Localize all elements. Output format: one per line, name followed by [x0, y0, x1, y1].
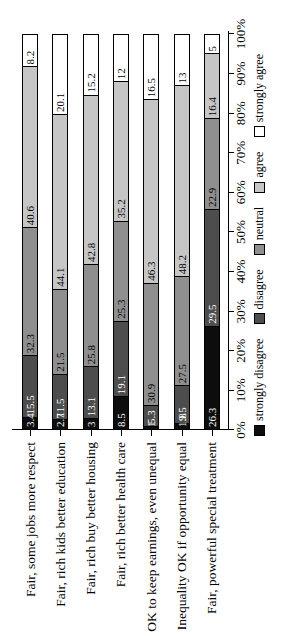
category-tick	[151, 430, 152, 436]
category-tick	[121, 430, 122, 436]
bar-segment-neutral: 22.9	[204, 118, 220, 210]
legend-label: neutral	[252, 207, 266, 240]
bar-segment-strongly-disagree: 1.8	[174, 423, 190, 430]
category-tick	[60, 430, 61, 436]
segment-value-label: 42.8	[85, 243, 96, 262]
segment-value-label: 3.4	[25, 413, 36, 427]
bar-segment-strongly-disagree: 3.4	[22, 417, 38, 430]
category-label: Fair, rich better health care	[112, 442, 129, 632]
bar-segment-strongly-agree: 12	[113, 34, 129, 83]
segment-value-label: 40.6	[25, 206, 36, 225]
segment-value-label: 25.3	[115, 299, 126, 318]
segment-value-label: 8.2	[25, 51, 36, 65]
category-label: Fair, rich buy better housing	[82, 442, 99, 632]
bar-segment-strongly-disagree: 3	[83, 418, 99, 430]
segment-value-label: 12	[115, 68, 126, 79]
bar-segment-strongly-agree: 8.2	[22, 34, 38, 67]
segment-value-label: 19.1	[115, 375, 126, 394]
legend-item: strongly disagree	[252, 339, 266, 436]
bar-segment-disagree: 5.3	[143, 405, 159, 427]
legend-swatch-strongly-disagree	[254, 425, 265, 436]
bar-segment-agree: 16.4	[204, 53, 220, 119]
segment-value-label: 44.1	[55, 267, 66, 286]
legend-swatch-agree	[254, 182, 265, 193]
legend-swatch-neutral	[254, 244, 265, 255]
segment-value-label: 11.5	[55, 398, 66, 417]
category-label: OK to keep earnings, even unequal	[143, 442, 160, 632]
legend-item: agree	[252, 152, 266, 193]
axis-tick-label: 70%	[233, 141, 248, 165]
category-tick	[212, 430, 213, 436]
chart-canvas: 0%10%20%30%40%50%60%70%80%90%100% Fair, …	[0, 0, 282, 636]
legend-label: strongly agree	[252, 54, 266, 122]
bar-segment-strongly-agree: 20.1	[52, 34, 68, 115]
segment-value-label: 21.5	[55, 353, 66, 372]
bar-segment-agree: 35.2	[113, 81, 129, 221]
axis-tick-label: 100%	[233, 19, 248, 49]
segment-value-label: 29.5	[206, 305, 217, 324]
bar-segment-neutral: 27.5	[174, 276, 190, 386]
category-tick	[182, 430, 183, 436]
segment-value-label: 13.1	[85, 397, 96, 416]
segment-value-label: 26.3	[206, 408, 217, 427]
segment-value-label: 8.5	[115, 413, 126, 427]
bar-segment-strongly-agree: 5	[204, 34, 220, 55]
bar-segment-disagree: 15.5	[22, 355, 38, 417]
bar-segment-agree: 48.2	[174, 86, 190, 278]
bar-segment-disagree: 11.5	[52, 374, 68, 421]
segment-value-label: 5	[206, 46, 217, 52]
legend-item: neutral	[252, 207, 266, 255]
legend-item: disagree	[252, 269, 266, 324]
segment-value-label: 16.5	[146, 78, 157, 97]
segment-value-label: 27.5	[176, 364, 187, 383]
legend-label: strongly disagree	[252, 339, 266, 421]
legend-label: agree	[252, 152, 266, 178]
bar-segment-agree: 46.3	[143, 99, 159, 283]
legend-item: strongly agree	[252, 54, 266, 137]
bar-segment-strongly-agree: 13	[174, 34, 190, 86]
axis-tick-label: 80%	[233, 101, 248, 125]
bar-segment-disagree: 13.1	[83, 366, 99, 419]
bar-segment-strongly-agree: 16.5	[143, 34, 159, 100]
bar-segment-strongly-agree: 15.2	[83, 34, 99, 95]
bar-segment-disagree: 29.5	[204, 209, 220, 327]
axis-tick-label: 10%	[233, 378, 248, 402]
legend-label: disagree	[252, 269, 266, 309]
segment-value-label: 30.9	[146, 384, 157, 403]
legend-swatch-disagree	[254, 313, 265, 324]
axis-tick-label: 30%	[233, 299, 248, 323]
bar-segment-neutral: 25.3	[113, 221, 129, 322]
legend-swatch-strongly-agree	[254, 126, 265, 137]
category-label: Fair, rich kids better education	[52, 442, 69, 632]
bar-segment-agree: 40.6	[22, 66, 38, 228]
bar-segment-neutral: 32.3	[22, 227, 38, 356]
bar-segment-neutral: 30.9	[143, 283, 159, 406]
category-label: Fair, some jobs more respect	[22, 442, 39, 632]
axis-tick-label: 90%	[233, 62, 248, 86]
segment-value-label: 9.5	[176, 407, 187, 421]
segment-value-label: 46.3	[146, 261, 157, 280]
segment-value-label: 15.5	[25, 395, 36, 414]
category-label: Fair, powerful special treatment	[203, 442, 220, 632]
legend: strongly disagreedisagreeneutralagreestr…	[250, 54, 268, 436]
segment-value-label: 13	[176, 72, 187, 83]
bar-segment-agree: 44.1	[52, 114, 68, 290]
bar-segment-neutral: 21.5	[52, 289, 68, 375]
bar-segment-strongly-disagree: 2.7	[52, 419, 68, 430]
axis-tick-label: 60%	[233, 180, 248, 204]
segment-value-label: 22.9	[206, 188, 217, 207]
axis-tick-label: 0%	[233, 421, 248, 438]
category-label: Inequality OK if opportunity equal	[173, 442, 190, 632]
bar-segment-agree: 42.8	[83, 95, 99, 265]
segment-value-label: 48.2	[176, 255, 187, 274]
segment-value-label: 20.1	[55, 93, 66, 112]
bar-segment-disagree: 19.1	[113, 321, 129, 398]
category-tick	[30, 430, 31, 436]
segment-value-label: 15.2	[85, 73, 96, 92]
segment-value-label: 3	[85, 422, 96, 428]
bar-segment-strongly-disagree: 8.5	[113, 396, 129, 430]
bar-segment-disagree: 9.5	[174, 385, 190, 424]
axis-tick-label: 40%	[233, 260, 248, 284]
plot-area: 0%10%20%30%40%50%60%70%80%90%100% Fair, …	[0, 0, 282, 636]
segment-value-label: 5.3	[146, 410, 157, 424]
